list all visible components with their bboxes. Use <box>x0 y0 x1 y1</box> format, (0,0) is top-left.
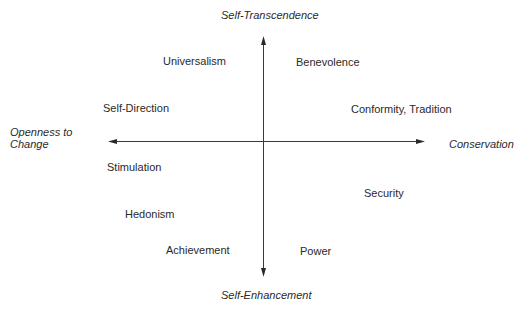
vertical-axis <box>261 36 266 277</box>
value-achievement: Achievement <box>166 244 230 257</box>
axis-label-right: Conservation <box>449 138 514 151</box>
value-benevolence: Benevolence <box>296 56 360 69</box>
arrow-down-icon <box>261 268 266 277</box>
value-security: Security <box>364 187 404 200</box>
value-self-direction: Self-Direction <box>103 102 169 115</box>
axis-label-top: Self-Transcendence <box>221 9 319 22</box>
axes <box>0 0 523 309</box>
schwartz-values-diagram: Self-Transcendence Self-Enhancement Open… <box>0 0 523 309</box>
horizontal-axis <box>108 139 425 144</box>
value-stimulation: Stimulation <box>107 161 161 174</box>
axis-label-left-line2: Change <box>10 138 49 151</box>
value-conformity-tradition: Conformity, Tradition <box>351 103 452 116</box>
arrow-left-icon <box>108 139 117 144</box>
arrow-right-icon <box>416 139 425 144</box>
value-universalism: Universalism <box>163 55 226 68</box>
value-hedonism: Hedonism <box>125 208 175 221</box>
arrow-up-icon <box>261 36 266 45</box>
value-power: Power <box>300 245 331 258</box>
axis-label-bottom: Self-Enhancement <box>221 289 312 302</box>
